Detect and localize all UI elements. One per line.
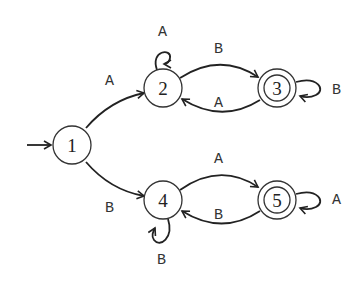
edge-label-4-4: B [157,252,166,269]
edge-3-3 [296,81,320,98]
state-2-label: 2 [158,78,168,99]
state-4-label: 4 [158,190,168,211]
edge-label-4-5: A [214,151,223,168]
state-5: 5 [258,181,296,219]
edge-label-1-4: B [105,200,114,217]
state-3-label: 3 [272,78,282,99]
state-5-label: 5 [272,190,282,211]
edge-label-2-3: B [214,41,223,58]
edge-label-5-5: A [332,192,341,209]
edge-label-5-4: B [214,207,223,224]
edge-4-4 [152,219,169,243]
edge-label-3-3: B [332,82,341,99]
state-4: 4 [144,181,182,219]
state-diagram: A B A B A B A B B A 1 2 3 4 5 [0,0,362,285]
edge-2-3 [180,65,258,78]
edge-label-3-2: A [214,95,223,112]
edge-1-4 [86,162,144,196]
edge-label-1-2: A [105,73,114,90]
state-1-label: 1 [67,135,77,156]
state-2: 2 [144,69,182,107]
edge-1-2 [86,93,144,128]
state-1: 1 [53,126,91,164]
edge-2-2 [156,52,171,70]
edge-5-5 [296,193,320,210]
state-3: 3 [258,69,296,107]
edge-4-5 [180,175,258,190]
edge-label-2-2: A [158,24,167,41]
